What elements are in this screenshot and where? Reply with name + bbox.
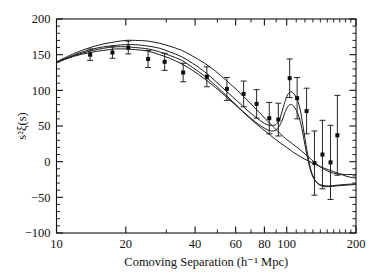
data-point [181, 71, 185, 75]
x-tick-label: 200 [347, 237, 366, 251]
data-point [329, 160, 333, 164]
data-point [242, 92, 246, 96]
y-tick-label: 100 [32, 84, 51, 98]
y-tick-label: −100 [25, 226, 51, 240]
y-tick-label: 0 [44, 155, 50, 169]
data-point [163, 60, 167, 64]
correlation-function-plot: 1020406080100200200150100500−50−100Comov… [0, 0, 383, 280]
y-tick-label: 200 [32, 12, 51, 26]
data-point [288, 76, 292, 80]
data-point [295, 96, 299, 100]
data-point [335, 133, 339, 137]
data-point [312, 161, 316, 165]
x-axis-title: Comoving Separation (h⁻¹ Mpc) [124, 255, 288, 269]
x-tick-label: 60 [229, 237, 242, 251]
data-point [110, 51, 114, 55]
data-point [225, 87, 229, 91]
x-tick-label: 100 [277, 237, 296, 251]
y-axis-title-group: s²ξ(s) [15, 112, 29, 139]
data-point [88, 53, 92, 57]
data-point [146, 57, 150, 61]
data-point [276, 118, 280, 122]
data-point [205, 75, 209, 79]
x-tick-label: 80 [258, 237, 271, 251]
x-tick-label: 20 [120, 237, 133, 251]
data-point [126, 46, 130, 50]
data-point [255, 102, 259, 106]
y-axis-title: s²ξ(s) [15, 112, 29, 139]
y-tick-label: −50 [31, 191, 51, 205]
data-point [320, 153, 324, 157]
x-tick-label: 40 [189, 237, 202, 251]
data-point [267, 116, 271, 120]
y-tick-label: 50 [38, 119, 51, 133]
x-tick-label: 10 [50, 237, 63, 251]
figure-canvas: 1020406080100200200150100500−50−100Comov… [0, 0, 383, 280]
data-point [305, 109, 309, 113]
y-tick-label: 150 [32, 48, 51, 62]
